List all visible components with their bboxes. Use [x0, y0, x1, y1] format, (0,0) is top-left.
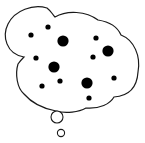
- dot-2: [57, 35, 68, 46]
- dot-5: [33, 55, 38, 60]
- dot-11: [81, 77, 92, 88]
- dot-12: [86, 95, 91, 100]
- dot-4: [102, 45, 113, 56]
- dot-10: [39, 83, 44, 88]
- thought-bubble-icon: [0, 0, 145, 143]
- dot-3: [93, 35, 98, 40]
- dot-0: [28, 32, 33, 37]
- dot-8: [111, 75, 116, 80]
- dot-9: [57, 78, 62, 83]
- trail-bubbles-group: [51, 111, 65, 137]
- dot-6: [90, 54, 95, 59]
- dot-7: [48, 61, 59, 72]
- trail-bubble-0: [51, 111, 63, 123]
- dot-1: [45, 24, 50, 29]
- trail-bubble-1: [57, 129, 64, 136]
- thought-bubble-image: [0, 0, 145, 143]
- cloud-outline: [5, 7, 138, 113]
